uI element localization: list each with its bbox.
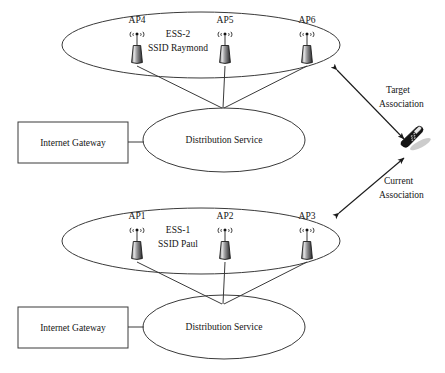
ap4-label: AP4 xyxy=(129,15,146,25)
current-association-label-line1: Current xyxy=(384,176,413,186)
ap2-signal-icon xyxy=(218,228,232,235)
upper-internet-gateway-label: Internet Gateway xyxy=(40,138,106,148)
ap3-link-line xyxy=(224,262,307,304)
ap6-link-line xyxy=(224,66,307,108)
upper-ess-name: ESS-2 xyxy=(166,29,191,39)
ap6-label: AP6 xyxy=(299,15,316,25)
ap5-body-icon xyxy=(220,46,231,64)
ap2-body-icon xyxy=(220,242,231,260)
ap4-link-line xyxy=(137,66,222,108)
access-point-ap4[interactable]: AP4 xyxy=(129,15,146,63)
ap1-link-line xyxy=(137,262,222,304)
upper-ess-ssid: SSID Raymond xyxy=(148,43,208,53)
ap6-signal-icon xyxy=(300,32,314,39)
lower-ess-ssid: SSID Paul xyxy=(158,239,198,249)
network-diagram-canvas: AP4 AP5 xyxy=(0,0,445,373)
ap5-signal-icon xyxy=(218,32,232,39)
lower-internet-gateway-label: Internet Gateway xyxy=(40,323,106,333)
diagram-svg: AP4 AP5 xyxy=(0,0,445,373)
ap5-label: AP5 xyxy=(217,15,234,25)
upper-distribution-service-label: Distribution Service xyxy=(186,135,263,145)
lower-ess-group: AP1 AP2 xyxy=(62,208,340,304)
access-point-ap5[interactable]: AP5 xyxy=(217,15,234,63)
ap2-label: AP2 xyxy=(217,211,234,221)
upper-ess-group: AP4 AP5 xyxy=(62,12,340,108)
target-association-label-line2: Association xyxy=(379,99,424,109)
mobile-phone-icon[interactable] xyxy=(397,124,432,155)
ap1-signal-icon xyxy=(130,228,144,235)
ap5-link-line xyxy=(223,66,225,108)
ap3-label: AP3 xyxy=(299,211,316,221)
ap3-signal-icon xyxy=(300,228,314,235)
ap4-body-icon xyxy=(132,46,143,64)
access-point-ap1[interactable]: AP1 xyxy=(129,211,146,259)
lower-infrastructure-group: Distribution Service Internet Gateway xyxy=(18,295,305,359)
ap3-body-icon xyxy=(302,242,313,260)
lower-ess-name: ESS-1 xyxy=(166,225,191,235)
upper-infrastructure-group: Distribution Service Internet Gateway xyxy=(18,108,305,172)
ap1-label: AP1 xyxy=(129,211,146,221)
ap2-link-line xyxy=(223,262,225,304)
ap4-signal-icon xyxy=(130,32,144,39)
access-point-ap2[interactable]: AP2 xyxy=(217,211,234,259)
access-point-ap6[interactable]: AP6 xyxy=(299,15,316,63)
ap1-body-icon xyxy=(132,242,143,260)
access-point-ap3[interactable]: AP3 xyxy=(299,211,316,259)
current-association-label-line2: Association xyxy=(379,190,424,200)
lower-distribution-service-label: Distribution Service xyxy=(186,322,263,332)
target-association-label-line1: Target xyxy=(386,85,410,95)
ap6-body-icon xyxy=(302,46,313,64)
